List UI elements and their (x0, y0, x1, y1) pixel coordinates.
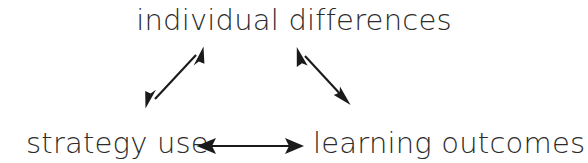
diagram-canvas: individual differences strategy use lear… (0, 0, 588, 163)
edge-individual-differences-learning-outcomes (297, 47, 351, 105)
edge-line (155, 55, 196, 99)
edge-line (305, 56, 342, 96)
edge-strategy-use-individual-differences (145, 47, 204, 109)
arrowhead-down-left (145, 90, 156, 109)
edge-strategy-use-learning-outcomes (197, 138, 305, 154)
arrow-layer (0, 0, 588, 163)
